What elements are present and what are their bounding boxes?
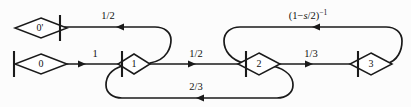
edge-label-transfer-expression: (1−s/2)−1 xyxy=(289,8,328,22)
node-2[interactable]: 2 xyxy=(238,51,280,77)
node-1[interactable]: 1 xyxy=(118,51,150,77)
arrow-head-left xyxy=(116,24,124,31)
node-2-label: 2 xyxy=(257,58,262,69)
edge-label-one-third: 1/3 xyxy=(304,48,317,59)
arrow-head-right xyxy=(188,61,196,68)
signal-flow-diagram: 0' 0 1 2 3 1/2 1 1/2 2/3 xyxy=(0,0,411,107)
edge-label-one: 1 xyxy=(92,48,97,59)
edge-1-to-2 xyxy=(150,61,246,68)
edge-label-one-half-top: 1/2 xyxy=(101,10,114,21)
arrow-head-right xyxy=(78,61,86,68)
expr-prefix: (1− xyxy=(289,10,304,22)
expr-superscript: −1 xyxy=(319,8,327,17)
node-0-label: 0 xyxy=(39,58,44,69)
edge-label-two-thirds: 2/3 xyxy=(189,81,202,92)
edge-2-to-3 xyxy=(274,61,358,68)
diagram-canvas: 0' 0 1 2 3 1/2 1 1/2 2/3 xyxy=(0,0,411,107)
node-3[interactable]: 3 xyxy=(350,51,392,77)
node-0[interactable]: 0 xyxy=(14,51,67,77)
edge-label-one-half-mid: 1/2 xyxy=(189,48,202,59)
arrow-head-right xyxy=(305,61,313,68)
edge-1-to-0prime-line xyxy=(60,27,171,63)
node-0-prime[interactable]: 0' xyxy=(15,15,67,41)
edge-1-to-0prime xyxy=(60,24,171,63)
node-1-label: 1 xyxy=(132,58,137,69)
arrow-head-left xyxy=(196,95,204,102)
expr-middle: /2) xyxy=(308,10,320,22)
node-0-prime-label: 0' xyxy=(37,22,44,33)
node-3-label: 3 xyxy=(369,58,374,69)
arrow-head-left xyxy=(312,24,320,31)
